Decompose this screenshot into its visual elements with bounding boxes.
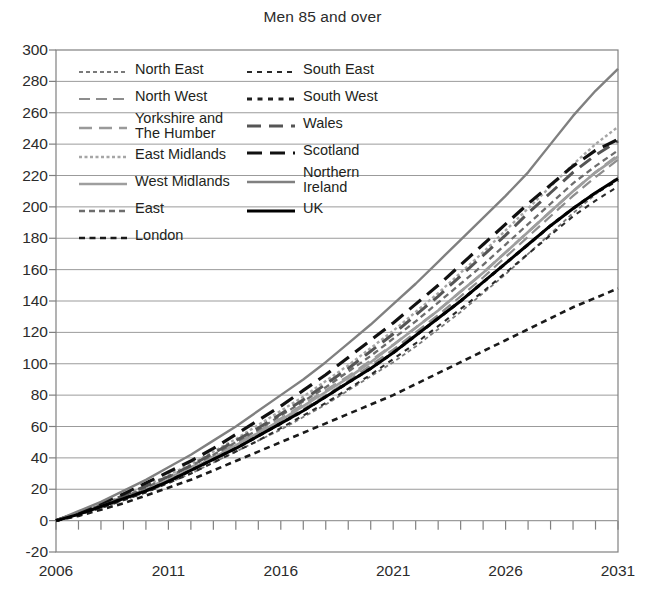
x-axis-tick-label: 2031 [583, 563, 645, 579]
legend-item[interactable]: Wales [246, 110, 386, 137]
series-line-london [56, 288, 618, 520]
legend-swatch-icon [246, 145, 296, 157]
legend-column-right: South EastSouth WestWalesScotlandNorther… [246, 56, 386, 222]
y-axis-tick-label: 60 [2, 419, 48, 435]
legend-label: Scotland [303, 143, 359, 158]
x-axis-tick-label: 2026 [471, 563, 541, 579]
legend-item[interactable]: South East [246, 56, 386, 83]
legend-label: East Midlands [135, 147, 226, 162]
y-axis-tick-label: 20 [2, 481, 48, 497]
y-axis-tick-label: 40 [2, 450, 48, 466]
legend-label: West Midlands [135, 174, 230, 189]
legend-item[interactable]: North West [78, 83, 246, 110]
legend-column-left: North EastNorth WestYorkshire and The Hu… [78, 56, 246, 249]
y-axis-tick-label: 200 [2, 199, 48, 215]
legend-swatch-icon [246, 118, 296, 130]
legend-swatch-icon [246, 203, 296, 215]
y-axis-tick-label: 100 [2, 356, 48, 372]
legend-swatch-icon [78, 120, 128, 132]
y-axis-tick-label: 80 [2, 387, 48, 403]
y-axis-tick-label: 0 [2, 513, 48, 529]
legend-label: North East [135, 62, 204, 77]
legend-swatch-icon [78, 203, 128, 215]
y-axis-tick-label: 160 [2, 262, 48, 278]
legend-item[interactable]: UK [246, 195, 386, 222]
y-axis-tick-label: 260 [2, 105, 48, 121]
legend-swatch-icon [78, 230, 128, 242]
chart-container: Men 85 and over -20020406080100120140160… [0, 0, 645, 598]
legend-label: Northern Ireland [303, 165, 359, 195]
legend-item[interactable]: East Midlands [78, 141, 246, 168]
legend-item[interactable]: East [78, 195, 246, 222]
legend-item[interactable]: West Midlands [78, 168, 246, 195]
legend-item[interactable]: London [78, 222, 246, 249]
legend-swatch-icon [78, 149, 128, 161]
legend-label: Yorkshire and The Humber [135, 111, 223, 141]
legend-label: London [135, 228, 183, 243]
legend-item[interactable]: Northern Ireland [246, 164, 386, 195]
legend-label: North West [135, 89, 207, 104]
legend-label: South East [303, 62, 374, 77]
legend-label: East [135, 201, 164, 216]
y-axis-tick-label: 300 [2, 42, 48, 58]
legend-item[interactable]: Yorkshire and The Humber [78, 110, 246, 141]
x-axis-tick-label: 2011 [133, 563, 203, 579]
y-axis-tick-label: 240 [2, 136, 48, 152]
legend-label: UK [303, 201, 323, 216]
x-axis-tick-label: 2016 [246, 563, 316, 579]
legend-swatch-icon [78, 91, 128, 103]
legend-swatch-icon [78, 176, 128, 188]
x-axis-tick-label: 2021 [358, 563, 428, 579]
legend-swatch-icon [246, 174, 296, 186]
x-axis-tick-label: 2006 [21, 563, 91, 579]
legend-item[interactable]: Scotland [246, 137, 386, 164]
y-axis-tick-label: 140 [2, 293, 48, 309]
y-axis-tick-label: -20 [2, 544, 48, 560]
y-axis-tick-label: 180 [2, 230, 48, 246]
legend-item[interactable]: South West [246, 83, 386, 110]
legend-label: Wales [303, 116, 343, 131]
y-axis-tick-label: 220 [2, 168, 48, 184]
y-axis-tick-label: 120 [2, 324, 48, 340]
legend-swatch-icon [246, 64, 296, 76]
legend-swatch-icon [78, 64, 128, 76]
legend-swatch-icon [246, 91, 296, 103]
legend-item[interactable]: North East [78, 56, 246, 83]
legend-label: South West [303, 89, 378, 104]
y-axis-tick-label: 280 [2, 73, 48, 89]
